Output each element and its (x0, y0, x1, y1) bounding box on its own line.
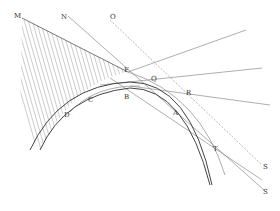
label-R: R (186, 89, 192, 97)
inner-curve (40, 88, 210, 185)
label-O: O (110, 13, 116, 21)
ray-M (22, 18, 128, 72)
label-B: B (124, 93, 129, 101)
arc-DCB (70, 86, 140, 112)
outer-curve (30, 82, 212, 185)
ray-N (68, 16, 264, 190)
label-C: C (88, 96, 93, 104)
optics-diagram: M N O F Q B C D R A T S S (0, 0, 280, 211)
label-D: D (64, 111, 70, 119)
label-F: F (124, 66, 129, 74)
ray-B-right (130, 86, 270, 105)
label-Q: Q (151, 75, 157, 83)
ray-F-up (128, 30, 246, 72)
label-T: T (213, 145, 218, 153)
label-S-upper: S (263, 163, 268, 171)
hatched-region (0, 20, 152, 160)
label-S-lower: S (263, 188, 268, 196)
label-N: N (61, 13, 67, 21)
label-A: A (172, 109, 179, 117)
label-M: M (14, 12, 21, 20)
